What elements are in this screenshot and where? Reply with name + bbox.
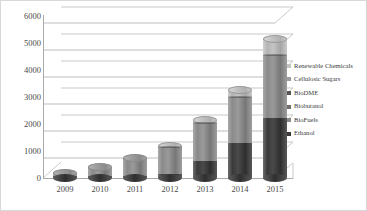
legend-label: BioDME: [294, 90, 318, 97]
x-tick-2010: 2010: [80, 185, 120, 194]
x-axis-labels: 2009 2010 2011 2012 2013 2014 2015: [43, 185, 293, 201]
x-tick-2013: 2013: [185, 185, 225, 194]
legend-item-biobutanol[interactable]: Biobutanol: [287, 100, 367, 114]
legend-item-biodme[interactable]: BioDME: [287, 86, 367, 100]
y-tick-1000: 1000: [7, 147, 41, 156]
bar-2011[interactable]: [123, 158, 147, 178]
y-tick-5000: 5000: [7, 39, 41, 48]
legend-swatch-icon: [287, 118, 291, 122]
bar-2012[interactable]: [158, 146, 182, 178]
legend-swatch-icon: [287, 132, 291, 136]
legend-item-renewable-chemicals[interactable]: Renewable Chemicals: [287, 59, 367, 73]
legend-item-ethanol[interactable]: Ethanol: [287, 127, 367, 141]
bar-2013[interactable]: [193, 120, 217, 178]
legend-label: Renewable Chemicals: [294, 63, 353, 70]
bar-2014[interactable]: [228, 90, 252, 178]
legend-swatch-icon: [287, 77, 291, 81]
legend-label: BioFuels: [294, 117, 318, 124]
chart-legend: Renewable Chemicals Cellulosic Sugars Bi…: [287, 59, 367, 141]
x-tick-2015: 2015: [255, 185, 295, 194]
x-tick-2012: 2012: [150, 185, 190, 194]
bar-2010[interactable]: [88, 167, 112, 178]
x-tick-2009: 2009: [45, 185, 85, 194]
legend-label: Ethanol: [294, 130, 315, 137]
bar-group: [43, 15, 293, 179]
y-tick-4000: 4000: [7, 66, 41, 75]
y-tick-0: 0: [7, 174, 41, 183]
y-tick-2000: 2000: [7, 120, 41, 129]
plot-area: [43, 15, 293, 179]
bar-2009[interactable]: [53, 173, 77, 178]
chart-container: 6000 5000 4000 3000 2000 1000 0: [0, 0, 367, 211]
legend-swatch-icon: [287, 105, 291, 109]
legend-swatch-icon: [287, 91, 291, 95]
legend-label: Cellulosic Sugars: [294, 76, 340, 83]
y-axis-labels: 6000 5000 4000 3000 2000 1000 0: [1, 1, 41, 201]
legend-label: Biobutanol: [294, 103, 323, 110]
y-tick-6000: 6000: [7, 12, 41, 21]
legend-swatch-icon: [287, 64, 291, 68]
y-tick-3000: 3000: [7, 93, 41, 102]
x-tick-2011: 2011: [115, 185, 155, 194]
legend-item-biofuels[interactable]: BioFuels: [287, 113, 367, 127]
legend-item-cellulosic-sugars[interactable]: Cellulosic Sugars: [287, 73, 367, 87]
x-tick-2014: 2014: [220, 185, 260, 194]
bar-2015[interactable]: [263, 39, 287, 178]
